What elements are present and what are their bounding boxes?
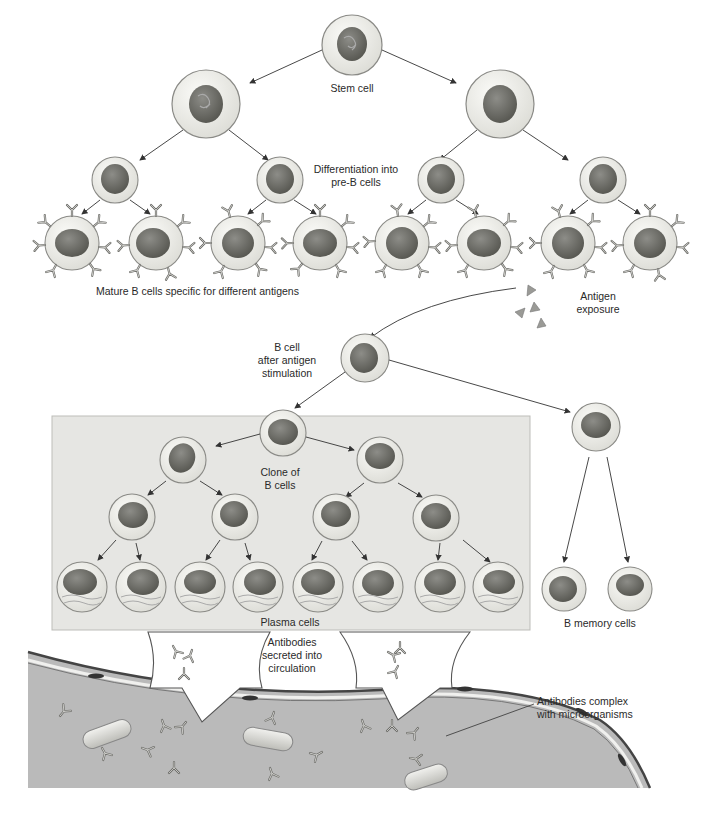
memory-parent-cell xyxy=(572,403,620,451)
stimulated-b-cell xyxy=(341,334,389,382)
label-antibodies-secreted: Antibodies secreted into circulation xyxy=(252,636,332,675)
stem-cell xyxy=(322,15,382,75)
progenitor-cell-left xyxy=(172,70,240,138)
label-b-cell-after-stimulation: B cell after antigen stimulation xyxy=(252,341,322,380)
antigen-icons xyxy=(515,285,546,328)
label-antigen-exposure: Antigen exposure xyxy=(568,290,628,316)
pre-b-cell xyxy=(418,157,464,203)
label-antibodies-complex: Antibodies complex with microorganisms xyxy=(537,695,633,721)
mature-b-cells-row xyxy=(34,204,689,280)
label-stem-cell: Stem cell xyxy=(322,82,382,95)
progenitor-cell-right xyxy=(466,70,534,138)
pre-b-cell xyxy=(92,157,138,203)
antigen-path-arrow xyxy=(370,288,516,338)
memory-cells xyxy=(542,567,652,611)
label-mature-b-cells: Mature B cells specific for different an… xyxy=(96,285,299,298)
label-clone-of-b-cells: Clone of B cells xyxy=(250,466,310,492)
clone-root-cell xyxy=(260,410,306,456)
label-b-memory-cells: B memory cells xyxy=(555,617,645,630)
pre-b-cell xyxy=(580,157,626,203)
label-differentiation: Differentiation into pre-B cells xyxy=(310,163,402,189)
label-plasma-cells: Plasma cells xyxy=(250,616,330,629)
pre-b-cell xyxy=(257,157,303,203)
